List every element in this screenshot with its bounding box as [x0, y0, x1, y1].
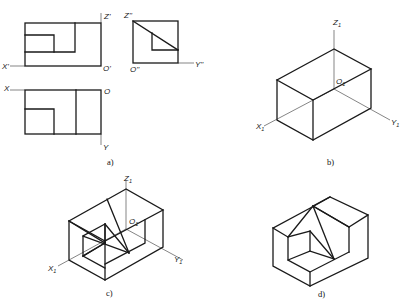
y1-axis — [334, 89, 390, 120]
label-x: X — [3, 84, 10, 93]
c-notch-bottom — [83, 256, 105, 268]
label-z1-c: Z1 — [123, 174, 132, 184]
iso-construction: Z1 O1 X1 Y1 — [47, 174, 183, 280]
front-step — [25, 23, 75, 52]
top-view: X O Y — [3, 84, 110, 152]
label-z1: Z1 — [332, 18, 341, 28]
c-top-face — [69, 189, 163, 241]
label-o-prime: O' — [103, 64, 111, 73]
label-y1: Y1 — [391, 118, 399, 128]
d-top-left-edge — [288, 206, 313, 237]
box-top-face — [277, 49, 371, 100]
label-y1-c: Y1 — [174, 255, 182, 265]
caption-b: b) — [327, 157, 334, 167]
d-notch-back — [288, 231, 310, 260]
label-o-double-prime: O'' — [130, 65, 140, 74]
c-diag-1 — [69, 221, 105, 243]
box-sides — [277, 69, 371, 140]
label-y-double-prime: Y'' — [195, 60, 204, 69]
top-outline — [25, 90, 101, 134]
label-x-prime: X' — [1, 62, 9, 71]
iso-solid — [273, 197, 368, 286]
front-outline — [25, 23, 101, 66]
front-view: Z' X' O' — [1, 12, 111, 73]
caption-d: d) — [318, 289, 325, 299]
label-y: Y — [103, 143, 109, 152]
d-slope-edge — [313, 206, 334, 259]
label-o1: O1 — [336, 77, 345, 87]
label-z-prime: Z' — [103, 12, 111, 21]
technical-drawing: Z' X' O' Z'' O'' Y'' X O Y a) Z1 O1 X1 Y… — [0, 0, 407, 299]
label-x1: X1 — [255, 122, 264, 132]
top-notch — [25, 109, 54, 134]
side-outline — [133, 21, 178, 63]
front-notch — [25, 35, 54, 52]
c-cross — [83, 243, 105, 256]
label-z-double-prime: Z'' — [123, 11, 132, 20]
label-x1-c: X1 — [47, 264, 56, 274]
d-bottom-front — [310, 252, 349, 272]
d-slope-top — [313, 206, 349, 227]
side-diagonal — [133, 21, 178, 50]
caption-a: a) — [107, 157, 114, 167]
caption-c: c) — [106, 288, 113, 298]
iso-box: Z1 O1 X1 Y1 — [255, 18, 399, 140]
side-view: Z'' O'' Y'' — [123, 11, 204, 74]
label-o: O — [104, 87, 110, 96]
label-o1-c: O1 — [129, 217, 138, 227]
